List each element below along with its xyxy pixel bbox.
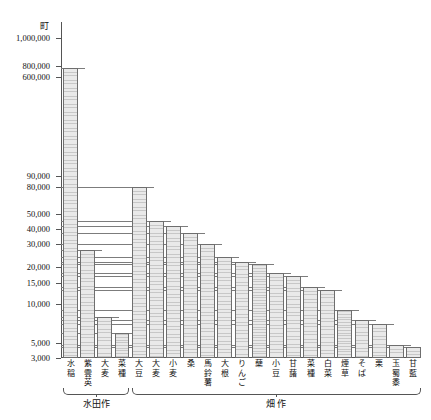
bar-slot [132, 22, 147, 358]
x-category-label: 蘖 [251, 359, 268, 369]
bar-slot [320, 22, 335, 358]
y-tick-label: 10,000 [27, 300, 50, 309]
y-tick: 5,000 [56, 343, 61, 344]
bar-slot [63, 22, 78, 358]
y-tick-label: 600,000 [22, 73, 50, 82]
y-tick-label: 3,000 [31, 354, 50, 363]
x-category-label: 甘藷 [285, 359, 302, 378]
x-category-label: 小豆 [268, 359, 285, 378]
y-tick-label: 5,000 [31, 339, 50, 348]
bar-slot [406, 22, 421, 358]
bar-slot [235, 22, 250, 358]
bar[interactable] [286, 276, 301, 358]
x-category-label: 菜種 [302, 359, 319, 378]
x-category-label: 栗 [371, 359, 388, 369]
group-bracket [63, 388, 129, 395]
y-tick: 20,000 [56, 267, 61, 268]
group-bracket-tick [96, 394, 97, 397]
bar-slot [252, 22, 267, 358]
bar[interactable] [337, 310, 352, 358]
bar[interactable] [235, 262, 250, 358]
x-category-label: 小麦 [165, 359, 182, 378]
bar[interactable] [389, 345, 404, 358]
y-tick-label: 40,000 [27, 225, 50, 234]
bar-slot [149, 22, 164, 358]
bar-slot [372, 22, 387, 358]
group-bracket [132, 388, 421, 395]
x-category-label: 菜種 [113, 359, 130, 378]
bar[interactable] [252, 264, 267, 358]
log-bar-chart: 町 1,000,000800,000600,00090,00080,00050,… [0, 0, 431, 420]
y-tick-label: 30,000 [27, 240, 50, 249]
bar-slot [183, 22, 198, 358]
bar[interactable] [149, 221, 164, 358]
bar[interactable] [303, 287, 318, 358]
x-category-label: 大麦 [96, 359, 113, 378]
plot-area: 1,000,000800,000600,00090,00080,00050,00… [61, 22, 421, 358]
bar-series [62, 22, 421, 358]
x-category-label: 紫雲英 [79, 359, 96, 388]
bar-slot [97, 22, 112, 358]
y-tick-label: 50,000 [27, 210, 50, 219]
x-category-label: 水稲 [62, 359, 79, 378]
y-tick: 90,000 [56, 176, 61, 177]
bar[interactable] [63, 68, 78, 358]
bar-slot [303, 22, 318, 358]
group-label: 畑 作 [132, 400, 421, 409]
bar-slot [115, 22, 130, 358]
bar-slot [166, 22, 181, 358]
x-category-label: 玉蜀黍 [388, 359, 405, 388]
y-tick: 600,000 [56, 77, 61, 78]
x-category-label: 煙草 [336, 359, 353, 378]
x-category-label: りんご [233, 359, 250, 388]
bar[interactable] [183, 233, 198, 358]
bar-slot [217, 22, 232, 358]
bar[interactable] [166, 226, 181, 358]
y-tick: 50,000 [56, 214, 61, 215]
bar-slot [80, 22, 95, 358]
y-tick-label: 800,000 [22, 62, 50, 71]
bar[interactable] [97, 317, 112, 358]
bar-slot [200, 22, 215, 358]
bar[interactable] [200, 244, 215, 358]
y-tick-label: 80,000 [27, 183, 50, 192]
x-category-label: 甘藍 [405, 359, 422, 378]
bar-slot [337, 22, 352, 358]
y-tick: 3,000 [56, 358, 61, 359]
group-bracket-tick [276, 394, 277, 397]
y-tick-label: 15,000 [27, 279, 50, 288]
y-tick: 10,000 [56, 304, 61, 305]
bar-slot [389, 22, 404, 358]
y-tick-label: 1,000,000 [16, 34, 50, 43]
bar-slot [269, 22, 284, 358]
y-tick: 1,000,000 [56, 38, 61, 39]
bar[interactable] [406, 347, 421, 358]
x-category-label: 大豆 [131, 359, 148, 378]
x-category-label: 大麦 [148, 359, 165, 378]
group-label: 水田作 [63, 400, 129, 409]
bar-slot [355, 22, 370, 358]
y-tick: 40,000 [56, 229, 61, 230]
bar[interactable] [372, 324, 387, 358]
y-tick-label: 90,000 [27, 172, 50, 181]
y-tick: 800,000 [56, 66, 61, 67]
x-category-label: 桑 [182, 359, 199, 369]
x-category-label: 大根 [216, 359, 233, 378]
bar[interactable] [355, 320, 370, 358]
x-category-label: そば [353, 359, 370, 378]
bar[interactable] [217, 257, 232, 358]
y-tick-label: 20,000 [27, 263, 50, 272]
y-tick: 15,000 [56, 283, 61, 284]
x-category-label: 馬鈴薯 [199, 359, 216, 388]
bar[interactable] [269, 273, 284, 358]
y-axis-unit-label: 町 [40, 22, 49, 31]
x-category-label: 白菜 [319, 359, 336, 378]
bar[interactable] [115, 333, 130, 358]
bar-slot [286, 22, 301, 358]
bar[interactable] [132, 187, 147, 358]
bar[interactable] [80, 250, 95, 358]
bar[interactable] [320, 290, 335, 358]
